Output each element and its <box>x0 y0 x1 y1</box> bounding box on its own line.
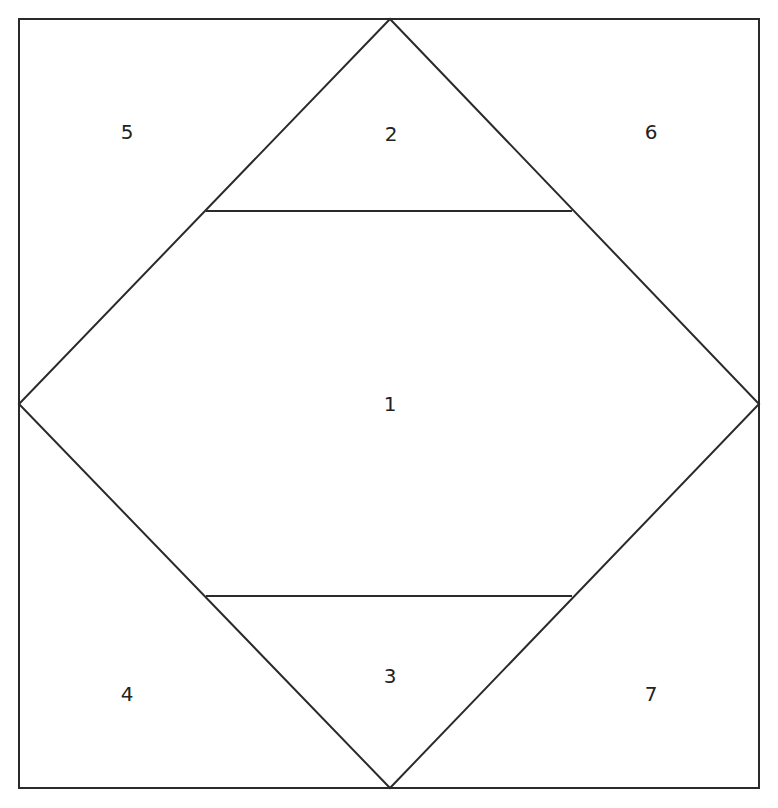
piece-label-1: 1 <box>370 389 410 419</box>
piece-label-5: 5 <box>107 117 147 147</box>
piece-label-4: 4 <box>107 679 147 709</box>
piece-label-3: 3 <box>370 661 410 691</box>
piece-label-7: 7 <box>631 679 671 709</box>
piece-label-2: 2 <box>371 119 411 149</box>
piece-label-6: 6 <box>631 117 671 147</box>
